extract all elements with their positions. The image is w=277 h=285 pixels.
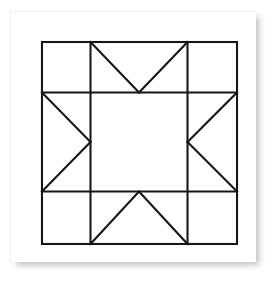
corner-patch-top-right <box>188 42 238 92</box>
diagonal-top-right-of-geese-top <box>139 42 188 92</box>
corner-patch-bottom-right <box>188 192 238 244</box>
diagonal-top-left-of-geese-top <box>90 42 139 92</box>
paper-card <box>10 11 256 262</box>
center-patch <box>90 93 187 192</box>
diagonal-bottom-left-of-geese-bottom <box>90 192 139 244</box>
diagonal-lower-of-geese-left <box>42 142 91 192</box>
corner-patch-bottom-left <box>42 192 91 244</box>
sawtooth-star-svg <box>40 40 239 246</box>
diagonal-upper-of-geese-right <box>188 93 238 143</box>
diagonal-upper-of-geese-left <box>42 93 91 143</box>
corner-patch-top-left <box>42 42 91 92</box>
canvas <box>0 0 277 285</box>
diagonal-bottom-right-of-geese-bottom <box>139 192 188 244</box>
diagonal-lower-of-geese-right <box>188 142 238 192</box>
quilt-block-diagram <box>40 40 239 246</box>
